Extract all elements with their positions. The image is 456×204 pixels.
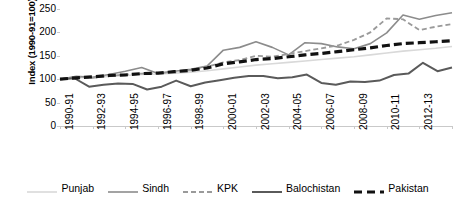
legend-item-sindh[interactable]: Sindh	[108, 183, 169, 194]
legend-label: Balochistan	[286, 183, 340, 194]
legend-label: Sindh	[142, 183, 169, 194]
legend-item-pakistan[interactable]: Pakistan	[354, 183, 428, 194]
chart-legend: PunjabSindhKPKBalochistanPakistan	[0, 178, 456, 198]
balochistan-swatch	[252, 183, 282, 193]
x-tick-label: 2000-01	[228, 93, 238, 130]
legend-item-punjab[interactable]: Punjab	[27, 183, 94, 194]
x-tick-label: 2010-11	[391, 94, 401, 130]
x-tick-label: 2008-09	[359, 93, 369, 130]
legend-item-kpk[interactable]: KPK	[183, 183, 238, 194]
legend-item-balochistan[interactable]: Balochistan	[252, 183, 340, 194]
x-tick-label: 1990-91	[65, 93, 75, 130]
x-tick-label: 1996-97	[163, 93, 173, 130]
punjab-swatch	[27, 183, 57, 193]
x-tick-label: 2012-13	[424, 93, 434, 130]
x-tick-label: 1998-99	[195, 93, 205, 130]
x-axis-tick-labels: 1990-911992-931994-951996-971998-992000-…	[0, 0, 456, 204]
pakistan-swatch	[354, 183, 384, 193]
x-tick-label: 2006-07	[326, 93, 336, 130]
x-tick-label: 2002-03	[261, 93, 271, 130]
x-tick-label: 2004-05	[293, 93, 303, 130]
x-tick-label: 1992-93	[97, 93, 107, 130]
legend-label: Pakistan	[388, 183, 428, 194]
legend-label: Punjab	[61, 183, 94, 194]
kpk-swatch	[183, 183, 213, 193]
line-chart: Index (1990-91=100) 250200150100500 1990…	[0, 0, 456, 204]
sindh-swatch	[108, 183, 138, 193]
x-tick-label: 1994-95	[130, 93, 140, 130]
legend-label: KPK	[217, 183, 238, 194]
